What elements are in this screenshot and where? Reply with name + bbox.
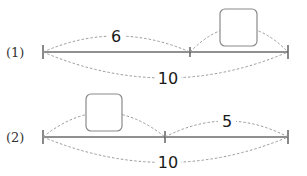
part-value-6: 6 xyxy=(111,27,121,46)
total-value: 10 xyxy=(158,153,178,172)
part-value-5: 5 xyxy=(222,112,232,131)
diagram-canvas: (1) 6 10 (2) xyxy=(0,0,307,176)
answer-box[interactable] xyxy=(220,9,257,46)
answer-box[interactable] xyxy=(86,94,122,131)
problem-2: (2) 5 10 xyxy=(6,94,288,172)
problem-1: (1) 6 10 xyxy=(6,9,288,88)
problem-1-label: (1) xyxy=(6,45,24,60)
total-value: 10 xyxy=(158,69,178,88)
problem-2-label: (2) xyxy=(6,130,24,145)
